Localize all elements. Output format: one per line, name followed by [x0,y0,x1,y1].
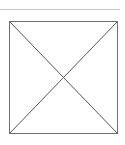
image-placeholder [9,21,118,134]
top-divider [0,9,120,10]
broken-image-placeholder-icon [10,22,117,133]
